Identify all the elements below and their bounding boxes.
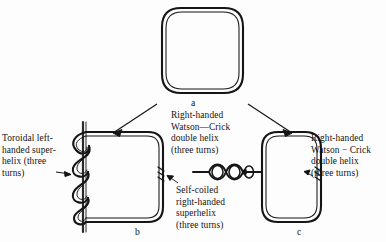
panel-b-toroidal-dna (73, 122, 164, 232)
panel-a-relaxed-dna (162, 8, 243, 93)
caption-self-coiled-superhelix: Self-coiled right-handed superhelix (thr… (176, 185, 258, 231)
panel-label-b: b (135, 226, 140, 237)
panel-label-c: c (297, 226, 301, 237)
self-coiled-interwound-helix (193, 165, 262, 180)
plectoneme-eye-1 (212, 166, 223, 179)
panel-c-inner-strand (266, 136, 317, 218)
panel-b-inner-strand (86, 136, 159, 218)
caption-toroidal-superhelix: Toroidal left- handed super- helix (thre… (2, 133, 76, 179)
panel-b-outer-strand (86, 132, 163, 222)
toroid-turn-1-inner (76, 136, 87, 152)
caption-watson-crick-double-helix-right: Right-handed Watson − Crick double helix… (311, 133, 386, 179)
pointer-twist-b (167, 176, 178, 184)
dna-supercoiling-figure: Toroidal left- handed super- helix (thre… (0, 0, 386, 242)
plectoneme-eye-2 (229, 166, 240, 179)
panel-a-outer-strand (162, 8, 243, 93)
caption-watson-crick-double-helix-top: Right-handed Watson—Crick double helix (… (171, 110, 257, 156)
panel-a-inner-strand (166, 12, 239, 89)
panel-label-a: a (191, 97, 195, 108)
